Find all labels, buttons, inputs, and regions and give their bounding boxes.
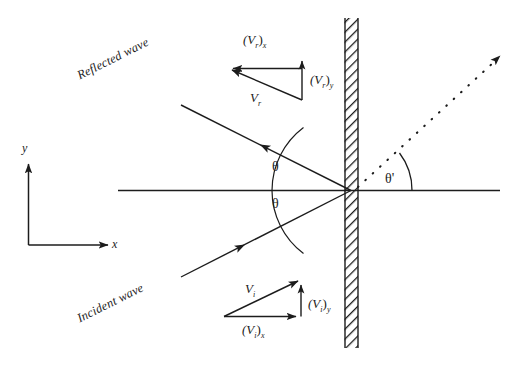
x-axis-label: x — [112, 238, 117, 250]
incident-velocity-triangle — [224, 281, 301, 317]
incident-resultant-label: Vi — [245, 282, 255, 299]
theta-incident-label: θ — [272, 197, 279, 211]
reflected-velocity-triangle — [232, 61, 302, 100]
incident-y-component-label: (Vi)y — [308, 297, 330, 314]
incident-ray — [181, 191, 351, 278]
theta-transmitted-label: θ' — [385, 172, 394, 186]
reflected-resultant-label: Vr — [250, 91, 261, 108]
coordinate-axes — [29, 164, 109, 245]
boundary-wall — [345, 18, 359, 348]
y-axis-label: y — [22, 142, 27, 154]
reflected-ray — [181, 105, 351, 191]
reflected-y-component-label: (Vr)y — [310, 73, 333, 90]
figure-canvas: y x θ θ θ' Reflected wave Incident wave … — [0, 0, 529, 380]
reflected-x-component-label: (Vr)x — [243, 33, 266, 50]
incident-x-component-label: (Vi)x — [242, 323, 264, 340]
transmitted-ray — [358, 56, 500, 187]
theta-reflected-label: θ — [272, 160, 279, 174]
